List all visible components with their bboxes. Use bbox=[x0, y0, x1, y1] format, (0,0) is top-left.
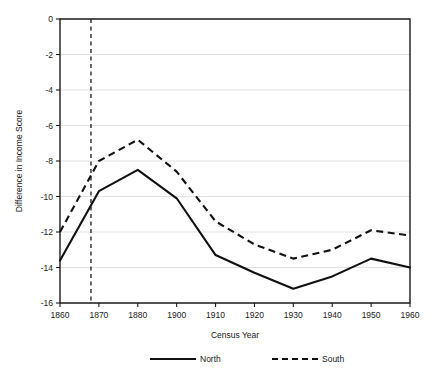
x-tick-label: 1920 bbox=[245, 310, 264, 320]
gridlines-group bbox=[60, 55, 410, 268]
chart-container: 0-2-4-6-8-10-12-14-16 186018701880190019… bbox=[0, 0, 432, 383]
series-line-north bbox=[60, 170, 410, 289]
x-tick-label: 1910 bbox=[206, 310, 225, 320]
y-tick-label: -10 bbox=[41, 192, 54, 202]
y-tick-label: -14 bbox=[41, 263, 54, 273]
y-tick-label: 0 bbox=[48, 14, 53, 24]
x-axis-tick-labels: 1860187018801900191019201930194019501960 bbox=[51, 310, 420, 320]
x-tick-label: 1940 bbox=[323, 310, 342, 320]
legend-label-south: South bbox=[322, 354, 344, 364]
legend-label-north: North bbox=[200, 354, 221, 364]
series-line-south bbox=[60, 140, 410, 259]
data-series-group bbox=[60, 140, 410, 289]
x-tick-label: 1900 bbox=[167, 310, 186, 320]
x-tick-label: 1930 bbox=[284, 310, 303, 320]
y-tick-label: -8 bbox=[45, 156, 53, 166]
y-tick-label: -2 bbox=[45, 50, 53, 60]
y-tick-label: -16 bbox=[41, 298, 54, 308]
y-axis-tick-labels: 0-2-4-6-8-10-12-14-16 bbox=[41, 14, 54, 308]
chart-legend: NorthSouth bbox=[150, 354, 344, 364]
line-chart-figure: 0-2-4-6-8-10-12-14-16 186018701880190019… bbox=[0, 0, 432, 383]
y-tick-label: -4 bbox=[45, 85, 53, 95]
x-tick-label: 1870 bbox=[89, 310, 108, 320]
y-tick-label: -12 bbox=[41, 227, 54, 237]
y-axis-title: Difference in Income Score bbox=[14, 110, 24, 213]
x-tick-label: 1880 bbox=[128, 310, 147, 320]
x-tick-label: 1860 bbox=[51, 310, 70, 320]
x-tick-label: 1950 bbox=[362, 310, 381, 320]
x-tick-label: 1960 bbox=[401, 310, 420, 320]
y-tick-label: -6 bbox=[45, 121, 53, 131]
x-axis-title: Census Year bbox=[211, 330, 259, 340]
